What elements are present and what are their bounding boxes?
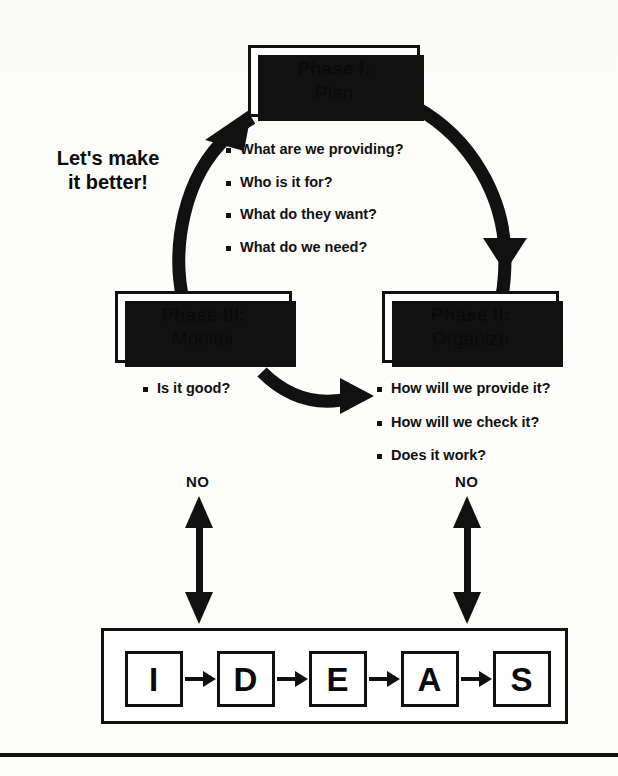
slogan-line-1: Let's make	[33, 147, 183, 171]
list-item: Does it work?	[377, 448, 551, 463]
phase-title: Phase III:	[161, 304, 245, 326]
arrow-right-icon	[459, 669, 493, 689]
list-item: What are we providing?	[226, 142, 404, 157]
phase-box-plan[interactable]: Phase I: Plan	[248, 45, 420, 117]
ideas-letter-row: I D E A S	[104, 631, 571, 727]
ideas-letter-box[interactable]: E	[309, 651, 367, 707]
no-label-right: NO	[455, 473, 479, 490]
phase-box-organize[interactable]: Phase II: Organize	[382, 291, 559, 363]
list-item: Who is it for?	[226, 175, 404, 190]
arc-organize-to-monitor-icon	[262, 372, 374, 414]
phase-plan-question-list: What are we providing? Who is it for? Wh…	[226, 142, 404, 272]
no-label-left: NO	[186, 473, 210, 490]
phase-subtitle: Monitor	[172, 328, 235, 351]
phase-title: Phase I:	[297, 58, 371, 80]
phase-monitor-question-list: Is it good?	[143, 381, 230, 396]
phase-title: Phase II:	[431, 304, 510, 326]
phase-box-monitor[interactable]: Phase III: Monitor	[115, 291, 292, 363]
ideas-process-frame: I D E A S	[101, 628, 568, 724]
diagram-canvas: Phase I: Plan What are we providing? Who…	[0, 0, 618, 776]
arrow-right-icon	[367, 669, 401, 689]
arrow-right-icon	[183, 669, 217, 689]
phase-organize-question-list: How will we provide it? How will we chec…	[377, 381, 551, 482]
list-item: What do we need?	[226, 240, 404, 255]
no-right-double-arrow-icon	[453, 496, 481, 624]
list-item: Is it good?	[143, 381, 230, 396]
phase-subtitle: Plan	[315, 82, 353, 105]
arc-plan-to-organize-icon	[417, 108, 527, 312]
slogan-text: Let's make it better!	[33, 147, 183, 194]
phase-subtitle: Organize	[432, 328, 509, 351]
footer-divider	[0, 753, 618, 757]
slogan-line-2: it better!	[33, 171, 183, 195]
ideas-letter-box[interactable]: A	[401, 651, 459, 707]
list-item: What do they want?	[226, 207, 404, 222]
list-item: How will we check it?	[377, 415, 551, 430]
no-left-double-arrow-icon	[185, 496, 213, 624]
arrow-right-icon	[275, 669, 309, 689]
ideas-letter-box[interactable]: D	[217, 651, 275, 707]
list-item: How will we provide it?	[377, 381, 551, 396]
ideas-letter-box[interactable]: S	[493, 651, 551, 707]
ideas-letter-box[interactable]: I	[125, 651, 183, 707]
